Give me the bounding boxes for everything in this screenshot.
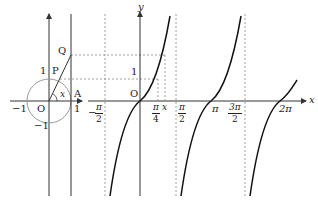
label-x-axis: x (309, 95, 315, 105)
label-y-one: 1 (131, 67, 137, 77)
tick-2pi: 2π (279, 104, 292, 114)
label-a: A (74, 89, 81, 99)
label-one-right: 1 (74, 104, 80, 114)
label-origin-graph: O (130, 89, 138, 99)
label-minus-one-bottom: −1 (34, 121, 49, 131)
tan-branch-third (250, 80, 297, 196)
diagram-canvas (0, 0, 318, 201)
label-q: Q (58, 46, 66, 56)
label-angle-x: x (60, 90, 65, 99)
tick-pi: π (212, 104, 219, 114)
tick-neg-pi-2: π 2 (95, 103, 103, 124)
tangent-diagram: Q P 1 A x O −1 1 −1 y x O 1 x − π 2 π 4 … (0, 0, 318, 201)
label-one-top: 1 (40, 66, 46, 76)
angle-arc (53, 94, 57, 101)
tick-3pi-2: 3π 2 (228, 103, 242, 124)
tick-pi-4: π 4 (152, 103, 160, 124)
label-x-point: x (162, 103, 167, 112)
tick-pi-2: π 2 (178, 103, 186, 124)
label-minus-one-left: −1 (12, 104, 27, 114)
label-p: P (52, 66, 59, 76)
label-origin-circle: O (37, 104, 45, 114)
label-y-axis: y (138, 2, 144, 12)
